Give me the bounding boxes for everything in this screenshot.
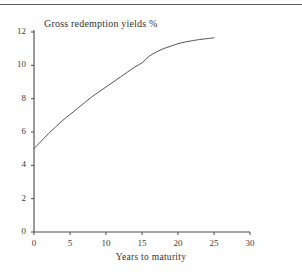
y-tick-label: 0 — [10, 226, 26, 236]
yield-curve-line — [34, 38, 214, 149]
x-tick-label: 20 — [169, 238, 187, 248]
x-tick-label: 10 — [97, 238, 115, 248]
y-tick-label: 4 — [10, 159, 26, 169]
x-tick-label: 30 — [241, 238, 259, 248]
x-tick-label: 25 — [205, 238, 223, 248]
y-tick-label: 10 — [10, 59, 26, 69]
y-tick-label: 6 — [10, 126, 26, 136]
figure-page: Gross redemption yields % 02468101205101… — [0, 0, 302, 280]
chart-figure: Gross redemption yields % 02468101205101… — [0, 0, 302, 280]
x-tick-label: 5 — [61, 238, 79, 248]
y-tick-label: 2 — [10, 193, 26, 203]
x-tick-label: 0 — [25, 238, 43, 248]
y-tick-label: 8 — [10, 93, 26, 103]
y-tick-label: 12 — [10, 26, 26, 36]
x-axis-label: Years to maturity — [0, 252, 302, 262]
x-tick-label: 15 — [133, 238, 151, 248]
